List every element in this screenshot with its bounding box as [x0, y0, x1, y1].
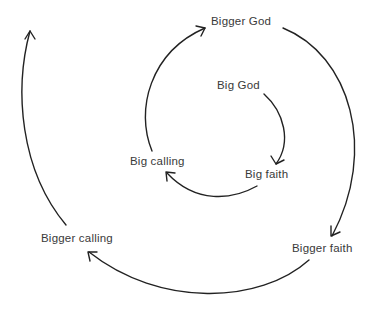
arrow-big-faith-to-big-calling	[166, 172, 257, 197]
arrow-big-calling-to-bigger-god	[145, 26, 205, 151]
node-bigger-god: Bigger God	[211, 16, 271, 28]
spiral-diagram: Bigger God Big God Big calling Big faith…	[0, 0, 383, 317]
node-big-god: Big God	[217, 80, 260, 92]
arrow-bigger-god-to-bigger-faith	[283, 28, 355, 236]
arrow-bigger-faith-to-bigger-calling	[88, 252, 309, 294]
arrow-layer	[0, 0, 383, 317]
node-bigger-calling: Bigger calling	[41, 233, 113, 245]
node-bigger-faith: Bigger faith	[292, 243, 353, 255]
node-big-faith: Big faith	[245, 169, 288, 181]
arrow-big-god-to-big-faith	[264, 94, 285, 164]
node-big-calling: Big calling	[130, 156, 185, 168]
arrow-bigger-calling-outward	[22, 31, 66, 225]
